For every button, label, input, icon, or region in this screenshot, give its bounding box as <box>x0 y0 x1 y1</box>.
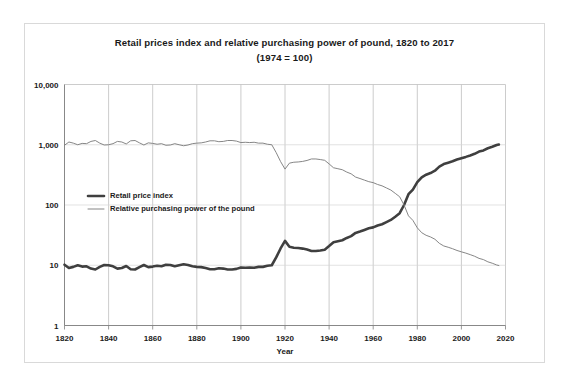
y-axis-tick-label: 1,000 <box>38 141 59 150</box>
chart-container: Retail prices index and relative purchas… <box>0 0 570 386</box>
x-axis-tick-label: 2020 <box>497 334 515 343</box>
x-axis-tick-label: 1860 <box>144 334 162 343</box>
x-axis-tick-label: 1920 <box>276 334 294 343</box>
axis-labels-group: 1101001,00010,00018201840186018801900192… <box>34 81 515 356</box>
y-axis-tick-label: 10 <box>50 261 59 270</box>
chart-legend: Retail price indexRelative purchasing po… <box>88 191 255 213</box>
x-axis-tick-label: 1980 <box>408 334 426 343</box>
x-axis-tick-label: 1820 <box>56 334 74 343</box>
x-axis-tick-label: 2000 <box>453 334 471 343</box>
x-axis-title: Year <box>277 347 294 356</box>
legend-label-relative-purchasing-power: Relative purchasing power of the pound <box>110 204 255 213</box>
tickmarks-group <box>65 326 506 330</box>
x-axis-tick-label: 1900 <box>232 334 250 343</box>
y-axis-tick-label: 1 <box>54 322 59 331</box>
y-axis-tick-label: 100 <box>45 201 59 210</box>
y-axis-tick-label: 10,000 <box>34 81 59 90</box>
chart-plot-area: 1101001,00010,00018201840186018801900192… <box>0 0 570 386</box>
x-axis-tick-label: 1840 <box>100 334 118 343</box>
x-axis-tick-label: 1880 <box>188 334 206 343</box>
legend-label-retail-price-index: Retail price index <box>110 191 174 200</box>
x-axis-tick-label: 1940 <box>320 334 338 343</box>
x-axis-tick-label: 1960 <box>364 334 382 343</box>
